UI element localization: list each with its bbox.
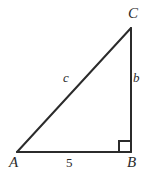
right-angle-marker-icon xyxy=(119,141,131,152)
side-label-hypotenuse-c: c xyxy=(63,71,69,84)
vertex-label-a: A xyxy=(9,155,18,170)
vertex-label-b: B xyxy=(127,155,136,170)
side-measure-label-ab: 5 xyxy=(66,156,73,169)
right-triangle-drawing xyxy=(0,0,150,173)
vertex-label-c: C xyxy=(128,6,138,21)
side-hypotenuse-ac xyxy=(17,28,131,152)
side-label-leg-b: b xyxy=(133,71,140,84)
geometry-figure: A B C c b 5 xyxy=(0,0,150,173)
